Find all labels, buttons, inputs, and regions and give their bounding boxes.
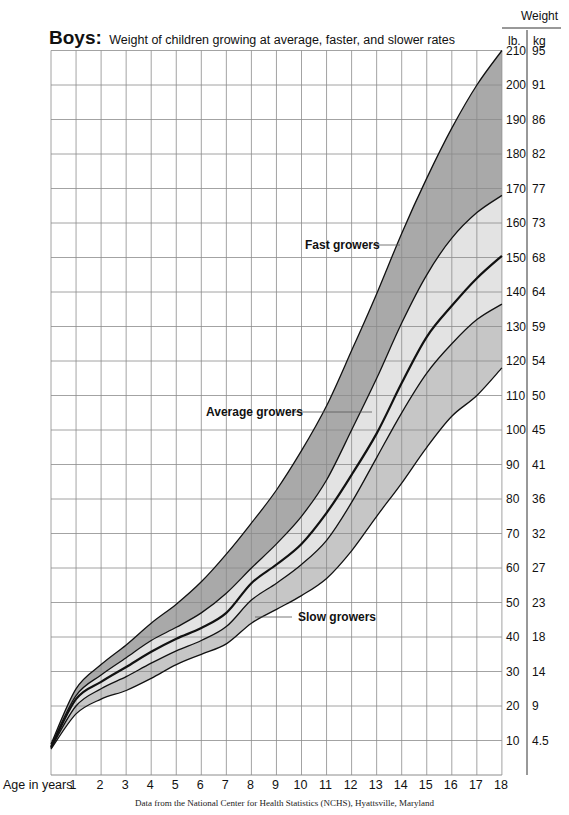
- chart-title: Boys: Weight of children growing at aver…: [49, 27, 455, 49]
- x-tick-label: 13: [369, 778, 383, 792]
- kg-tick-label: 27: [532, 561, 545, 575]
- x-tick-label: 18: [494, 778, 508, 792]
- lb-tick-label: 210: [506, 44, 526, 58]
- lb-tick-label: 60: [506, 561, 519, 575]
- kg-tick-label: 68: [532, 251, 545, 265]
- kg-tick-label: 59: [532, 320, 545, 334]
- x-tick-label: 6: [197, 778, 204, 792]
- lb-tick-label: 170: [506, 182, 526, 196]
- kg-tick-label: 23: [532, 596, 545, 610]
- lb-tick-label: 190: [506, 113, 526, 127]
- lb-tick-label: 100: [506, 423, 526, 437]
- kg-tick-label: 36: [532, 492, 545, 506]
- kg-tick-label: 95: [532, 44, 545, 58]
- lb-tick-label: 180: [506, 147, 526, 161]
- kg-tick-label: 32: [532, 527, 545, 541]
- lb-tick-label: 20: [506, 699, 519, 713]
- x-tick-label: 12: [344, 778, 358, 792]
- lb-tick-label: 110: [506, 389, 525, 403]
- x-tick-label: 10: [294, 778, 308, 792]
- x-tick-label: 16: [444, 778, 458, 792]
- title-bold: Boys:: [49, 27, 102, 48]
- x-tick-label: 14: [394, 778, 408, 792]
- weight-axis-header: Weight: [521, 9, 558, 23]
- kg-tick-label: 64: [532, 285, 545, 299]
- lb-tick-label: 70: [506, 527, 519, 541]
- lb-tick-label: 50: [506, 596, 519, 610]
- kg-tick-label: 54: [532, 354, 545, 368]
- kg-tick-label: 18: [532, 630, 545, 644]
- x-tick-label: 11: [319, 778, 332, 792]
- kg-tick-label: 14: [532, 665, 545, 679]
- lb-tick-label: 130: [506, 320, 526, 334]
- lb-tick-label: 150: [506, 251, 526, 265]
- kg-tick-label: 41: [532, 458, 545, 472]
- x-tick-label: 7: [222, 778, 229, 792]
- lb-tick-label: 30: [506, 665, 519, 679]
- kg-tick-label: 82: [532, 147, 545, 161]
- data-source-note: Data from the National Center for Health…: [0, 798, 569, 808]
- lb-tick-label: 140: [506, 285, 526, 299]
- x-tick-label: 5: [172, 778, 179, 792]
- title-subtitle: Weight of children growing at average, f…: [109, 33, 455, 47]
- lb-tick-label: 200: [506, 78, 526, 92]
- x-tick-label: 17: [469, 778, 483, 792]
- kg-tick-label: 86: [532, 113, 545, 127]
- lb-tick-label: 160: [506, 216, 526, 230]
- x-tick-label: 8: [247, 778, 254, 792]
- annotation-average-growers: Average growers: [206, 405, 303, 419]
- x-tick-label: 2: [97, 778, 104, 792]
- lb-tick-label: 120: [506, 354, 526, 368]
- kg-tick-label: 50: [532, 389, 545, 403]
- lb-tick-label: 90: [506, 458, 519, 472]
- annotation-fast-growers: Fast growers: [305, 238, 380, 252]
- kg-tick-label: 45: [532, 423, 545, 437]
- lb-tick-label: 80: [506, 492, 519, 506]
- x-tick-label: 3: [122, 778, 129, 792]
- kg-tick-label: 91: [532, 78, 545, 92]
- kg-tick-label: 4.5: [532, 734, 549, 748]
- kg-tick-label: 77: [532, 182, 545, 196]
- annotation-slow-growers: Slow growers: [298, 610, 376, 624]
- x-tick-label: 15: [419, 778, 433, 792]
- x-axis-label: Age in years: [3, 778, 72, 792]
- kg-tick-label: 73: [532, 216, 545, 230]
- lb-tick-label: 10: [506, 734, 519, 748]
- lb-tick-label: 40: [506, 630, 519, 644]
- kg-tick-label: 9: [532, 699, 539, 713]
- x-tick-label: 9: [272, 778, 279, 792]
- x-tick-label: 1: [70, 778, 77, 792]
- x-tick-label: 4: [147, 778, 154, 792]
